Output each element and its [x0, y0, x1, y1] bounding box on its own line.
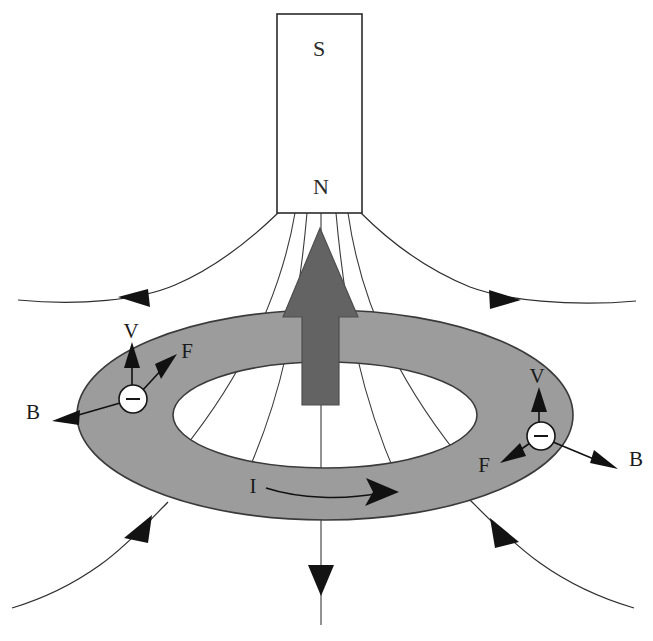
right-charge-b-arrowhead: [590, 450, 618, 469]
field-line-outer-right: [361, 213, 636, 303]
left-charge-f-label: F: [181, 339, 193, 363]
right-charge-v-label: V: [529, 364, 544, 388]
magnet-motion-arrow: [283, 228, 358, 405]
diagram-svg: S N I B V F: [0, 0, 653, 641]
bar-magnet: S N: [277, 14, 362, 213]
left-charge-b-arrowhead: [52, 410, 80, 425]
magnet-north-pole-label: N: [313, 174, 329, 199]
field-line-bottom-right: [470, 500, 634, 608]
left-charge-b-label: B: [26, 400, 40, 424]
field-line-arrowhead-bottom-left: [124, 515, 152, 543]
right-charge-b-label: B: [629, 447, 643, 471]
magnet-motion-arrow-shape: [283, 228, 358, 405]
field-line-bottom-left: [12, 502, 168, 608]
left-charge-v-label: V: [123, 319, 138, 343]
current-label: I: [250, 474, 257, 498]
field-line-arrowhead-center-down: [308, 565, 334, 596]
field-line-arrowhead-bottom-right: [490, 518, 519, 548]
field-line-arrowhead-right: [489, 290, 521, 309]
magnet-south-pole-label: S: [313, 36, 325, 61]
physics-diagram-canvas: S N I B V F: [0, 0, 653, 641]
field-line-arrowhead-left: [118, 289, 150, 307]
right-charge-f-label: F: [478, 453, 490, 477]
field-line-outer-left: [18, 213, 278, 302]
